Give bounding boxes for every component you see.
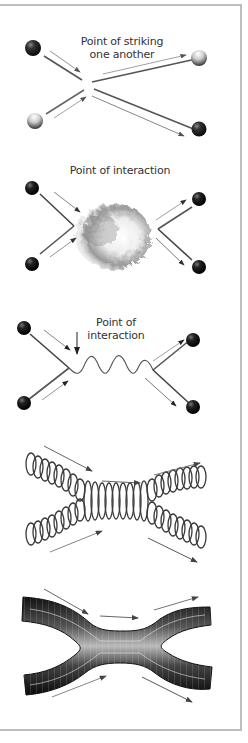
label-interaction: Point of interaction <box>60 164 180 177</box>
particle-icon <box>192 260 206 274</box>
particle-icon <box>192 122 207 137</box>
tube-string-icon <box>22 597 212 695</box>
helix-string-icon <box>26 453 206 548</box>
label-line: one another <box>72 48 172 61</box>
panel-string-tube <box>0 585 248 731</box>
panel-interaction-cloud: Point of interaction <box>0 150 248 300</box>
panel-classical-collision: Point of striking one another <box>0 0 248 150</box>
particle-icon <box>25 181 39 195</box>
label-line: Point of striking <box>72 35 172 48</box>
helix-string-diagram <box>0 440 248 585</box>
label-striking: Point of striking one another <box>72 35 172 61</box>
particle-icon <box>192 192 206 206</box>
wavy-exchange-line <box>69 356 153 374</box>
panel-string-helix <box>0 440 248 585</box>
particle-icon <box>186 333 200 347</box>
panel-feynman-exchange: Point of interaction <box>0 300 248 440</box>
particle-icon <box>25 257 39 271</box>
particle-icon <box>17 396 31 410</box>
particle-icon <box>25 40 41 56</box>
tube-string-diagram <box>0 585 248 731</box>
particle-icon <box>186 400 200 414</box>
label-interaction-point: Point of interaction <box>66 316 166 342</box>
particle-icon <box>27 113 43 129</box>
particle-icon <box>191 50 207 66</box>
collision-diagram <box>0 0 248 150</box>
particle-icon <box>17 321 31 335</box>
